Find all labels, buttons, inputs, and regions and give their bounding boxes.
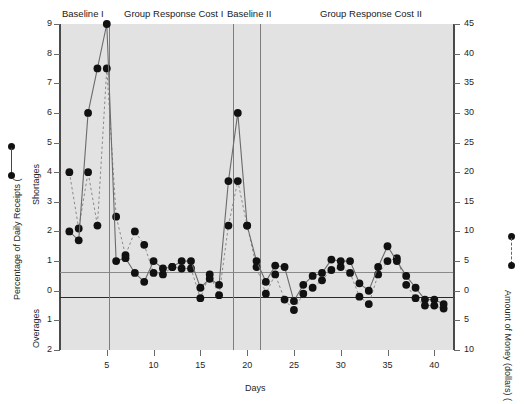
y-ticklabel-left: 6: [42, 107, 52, 117]
y-tick-right: [454, 83, 460, 84]
y-ticklabel-left: 9: [42, 18, 52, 28]
y-tick-left: [54, 202, 60, 203]
right-axis-title: Amount of Money (dollars) (: [503, 290, 513, 401]
y-ticklabel-left: 2: [42, 225, 52, 235]
y-ticklabel-right: 10: [464, 344, 474, 354]
y-tick-left: [54, 291, 60, 292]
x-ticklabel: 30: [333, 360, 349, 370]
y-ticklabel-right: 45: [464, 18, 474, 28]
y-tick-left: [54, 24, 60, 25]
y-tick-right: [454, 231, 460, 232]
x-axis-title: Days: [245, 383, 266, 393]
x-ticklabel: 10: [146, 360, 162, 370]
y-tick-right: [454, 320, 460, 321]
y-tick-left: [54, 83, 60, 84]
legend-line-dashed: [511, 238, 512, 264]
y-tick-left: [54, 320, 60, 321]
y-tick-right: [454, 291, 460, 292]
y-ticklabel-left: 7: [42, 77, 52, 87]
y-tick-left: [54, 172, 60, 173]
left-axis-region-overages: Overages: [31, 309, 41, 348]
x-tick: [388, 350, 389, 356]
criterion-reference-line: [60, 272, 453, 273]
x-ticklabel: 15: [192, 360, 208, 370]
x-ticklabel: 20: [239, 360, 255, 370]
y-tick-left: [54, 231, 60, 232]
y-ticklabel-left: 1: [42, 314, 52, 324]
x-tick: [294, 350, 295, 356]
y-tick-right: [454, 350, 460, 351]
legend-dot-bottom: [8, 172, 15, 179]
phase-label-baseline-1: Baseline I: [62, 8, 104, 19]
y-ticklabel-right: 5: [464, 314, 469, 324]
y-ticklabel-right: 10: [464, 225, 474, 235]
left-axis-title: Percentage of Daily Receipts (: [12, 178, 22, 300]
y-tick-left: [54, 261, 60, 262]
y-ticklabel-left: 3: [42, 196, 52, 206]
y-ticklabel-right: 15: [464, 196, 474, 206]
x-tick: [247, 350, 248, 356]
left-axis-region-shortages: Shortages: [31, 164, 41, 205]
legend-dot-bottom: [508, 262, 515, 269]
x-tick: [341, 350, 342, 356]
x-tick: [154, 350, 155, 356]
zero-reference-line: [60, 297, 453, 299]
y-tick-left: [54, 54, 60, 55]
x-ticklabel: 25: [286, 360, 302, 370]
x-tick: [107, 350, 108, 356]
y-tick-right: [454, 172, 460, 173]
y-ticklabel-right: 35: [464, 77, 474, 87]
y-ticklabel-left: 5: [42, 137, 52, 147]
y-tick-right: [454, 24, 460, 25]
x-ticklabel: 5: [99, 360, 115, 370]
x-ticklabel: 40: [426, 360, 442, 370]
y-ticklabel-left: 2: [42, 344, 52, 354]
y-tick-right: [454, 261, 460, 262]
y-ticklabel-right: 0: [464, 285, 469, 295]
phase-label-baseline-2: Baseline II: [227, 8, 271, 19]
chart-figure: Baseline I Group Response Cost I Baselin…: [0, 0, 524, 404]
phase-divider-1: [109, 24, 110, 350]
phase-label-group-response-cost-1: Group Response Cost I: [124, 8, 223, 19]
legend-line-solid: [11, 148, 12, 174]
right-axis-line: [453, 24, 455, 350]
phase-label-group-response-cost-2: Group Response Cost II: [320, 8, 422, 19]
y-ticklabel-right: 40: [464, 48, 474, 58]
left-axis-line: [59, 24, 61, 350]
y-ticklabel-left: 1: [42, 255, 52, 265]
y-ticklabel-right: 5: [464, 255, 469, 265]
y-ticklabel-right: 20: [464, 166, 474, 176]
y-tick-right: [454, 113, 460, 114]
x-tick: [434, 350, 435, 356]
y-ticklabel-right: 25: [464, 137, 474, 147]
y-tick-right: [454, 54, 460, 55]
y-tick-left: [54, 143, 60, 144]
y-tick-left: [54, 113, 60, 114]
phase-divider-3: [260, 24, 261, 350]
y-ticklabel-right: 30: [464, 107, 474, 117]
y-ticklabel-left: 0: [42, 285, 52, 295]
y-ticklabel-left: 8: [42, 48, 52, 58]
x-ticklabel: 35: [380, 360, 396, 370]
y-tick-left: [54, 350, 60, 351]
phase-divider-2: [233, 24, 234, 350]
plot-area-background: [60, 24, 453, 350]
y-ticklabel-left: 4: [42, 166, 52, 176]
y-tick-right: [454, 143, 460, 144]
y-tick-right: [454, 202, 460, 203]
x-tick: [200, 350, 201, 356]
